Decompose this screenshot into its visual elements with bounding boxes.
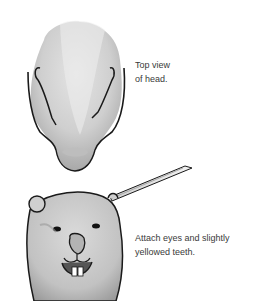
- attach-eyes-caption: Attach eyes and slightly yellowed teeth.: [135, 231, 230, 259]
- caption-line: of head.: [135, 72, 170, 86]
- left-tooth: [72, 267, 77, 276]
- top-view-caption: Top view of head.: [135, 58, 170, 86]
- right-ear: [108, 194, 118, 199]
- front-view-head: [27, 192, 123, 301]
- caption-line: Top view: [135, 58, 170, 72]
- caption-line: yellowed teeth.: [135, 245, 230, 259]
- top-view-head: [28, 21, 125, 171]
- right-tooth: [78, 267, 83, 276]
- left-ear: [29, 196, 45, 212]
- paint-brush: [110, 166, 192, 201]
- caption-line: Attach eyes and slightly: [135, 231, 230, 245]
- right-eye: [92, 224, 100, 229]
